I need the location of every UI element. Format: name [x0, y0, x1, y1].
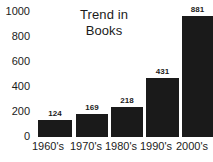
y-tick-label: 0: [0, 131, 30, 142]
bar-group: 169: [76, 0, 108, 137]
bar-value-label: 881: [182, 5, 213, 14]
bar-value-label: 124: [38, 109, 72, 118]
x-tick-label: 2000's: [172, 140, 212, 153]
bar-value-label: 431: [146, 67, 179, 76]
bar: [38, 120, 72, 137]
bar-group: 218: [111, 0, 143, 137]
x-tick-label: 1990's: [136, 140, 176, 153]
y-tick-label: 200: [0, 106, 30, 117]
bar-chart: Trend in Books 1000 800 600 400 200 0 12…: [0, 0, 213, 162]
bar-group: 881: [182, 0, 213, 137]
y-tick-label: 1000: [0, 6, 30, 17]
y-tick-label: 800: [0, 31, 30, 42]
bar-value-label: 169: [76, 103, 108, 112]
bar: [146, 78, 179, 137]
bar: [182, 16, 213, 137]
plot-area: 124 169 218 431 881: [34, 0, 213, 137]
bar-group: 431: [146, 0, 179, 137]
y-tick-label: 600: [0, 56, 30, 67]
x-tick-label: 1960's: [28, 140, 68, 153]
x-tick-label: 1980's: [101, 140, 141, 153]
y-axis: 1000 800 600 400 200 0: [0, 0, 32, 162]
bar-group: 124: [38, 0, 72, 137]
bar-value-label: 218: [111, 96, 143, 105]
bar: [76, 114, 108, 137]
bar: [111, 107, 143, 137]
y-tick-label: 400: [0, 81, 30, 92]
x-tick-label: 1970's: [66, 140, 106, 153]
x-axis: 1960's 1970's 1980's 1990's 2000's: [28, 140, 213, 160]
